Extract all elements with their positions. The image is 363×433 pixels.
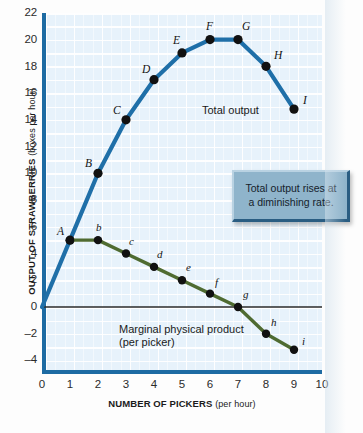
data-point-marker [205, 35, 214, 44]
data-point-marker [178, 276, 186, 284]
data-point-marker [290, 346, 298, 354]
callout-box: Total output rises at a diminishing rate… [232, 170, 350, 222]
mpp-annotation-line2: (per picker) [119, 336, 175, 348]
point-label-I-total: I [303, 94, 307, 106]
data-point-marker [93, 169, 102, 178]
point-label-d-mpp: d [157, 248, 163, 260]
data-point-marker [66, 236, 74, 244]
point-label-B-total: B [85, 157, 92, 169]
point-label-G-total: G [242, 20, 250, 32]
point-label-b-mpp: b [96, 221, 102, 233]
data-point-marker [234, 303, 242, 311]
data-point-marker [206, 289, 214, 297]
point-label-H-total: H [274, 49, 282, 61]
point-label-i-mpp: i [302, 335, 305, 347]
data-point-marker [262, 330, 270, 338]
callout-line1: Total output rises at [245, 182, 336, 194]
callout-line2: a diminishing rate. [248, 196, 333, 208]
point-label-E-total: E [173, 34, 180, 46]
point-label-C-total: C [113, 104, 121, 116]
data-point-marker [149, 75, 158, 84]
point-label-F-total: F [206, 20, 213, 32]
point-label-f-mpp: f [215, 276, 218, 288]
mpp-annotation: Marginal physical product (per picker) [119, 323, 244, 349]
chart-figure: 22 20 18 16 14 12 10 8 6 4 2 0 –2 –4 0 1… [0, 0, 363, 433]
data-point-marker [94, 236, 102, 244]
data-point-marker [122, 249, 130, 257]
data-point-marker [233, 35, 242, 44]
point-label-D-total: D [142, 63, 150, 75]
data-point-marker [177, 48, 186, 57]
data-point-marker [121, 115, 130, 124]
mpp-annotation-line1: Marginal physical product [119, 323, 244, 335]
data-point-marker [261, 62, 270, 71]
data-point-marker [150, 263, 158, 271]
total-output-annotation: Total output [202, 104, 259, 116]
data-point-marker [289, 105, 298, 114]
point-label-h-mpp: h [271, 316, 277, 328]
point-label-A-total: A [57, 225, 64, 237]
point-label-g-mpp: g [243, 288, 249, 300]
point-label-e-mpp: e [186, 261, 191, 273]
point-label-c-mpp: c [129, 235, 134, 247]
